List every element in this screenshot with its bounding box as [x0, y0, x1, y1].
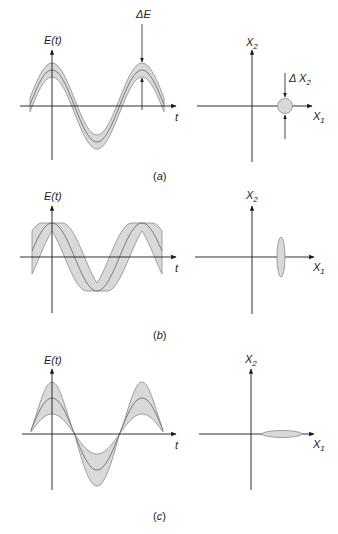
x1-label: X1: [312, 110, 325, 125]
panel-caption-b: (b): [153, 329, 166, 341]
x2-label: X2: [244, 353, 257, 368]
x2-label: X2: [245, 36, 258, 51]
x1-label: X1: [312, 261, 325, 276]
panel-caption-a: (a): [153, 170, 166, 182]
panel-c: E(t) t X1 X2 (c): [22, 353, 325, 522]
phase-plot-c: X1 X2: [199, 353, 325, 490]
uncertainty-circle: [278, 99, 293, 114]
phase-plot-b: X1 X2: [195, 189, 325, 314]
figure-canvas: E(t) t ΔE Δ X2 X1 X2 (a) E(t) t: [0, 0, 338, 534]
time-plot-c: E(t) t: [22, 354, 179, 490]
x2-label: X2: [245, 189, 258, 204]
x1-label: X1: [312, 438, 325, 453]
time-plot-a: E(t) t ΔE: [20, 8, 179, 160]
panel-b: E(t) t X1 X2 (b): [20, 189, 325, 341]
field-axis-label: E(t): [44, 354, 62, 366]
time-axis-label: t: [175, 111, 179, 123]
field-axis-label: E(t): [44, 190, 62, 202]
delta-x2-label: Δ X2: [288, 72, 311, 87]
field-axis-label: E(t): [44, 34, 62, 46]
panel-caption-c: (c): [153, 510, 166, 522]
time-plot-b: E(t) t: [20, 190, 179, 313]
time-axis-label: t: [175, 439, 179, 451]
delta-e-label: ΔE: [135, 8, 151, 20]
uncertainty-ellipse-horizontal: [262, 431, 302, 438]
time-axis-label: t: [175, 262, 179, 274]
panel-a: E(t) t ΔE Δ X2 X1 X2 (a): [20, 8, 325, 182]
squeezed-light-figure: E(t) t ΔE Δ X2 X1 X2 (a) E(t) t: [0, 0, 338, 534]
phase-plot-a: Δ X2 X1 X2: [197, 36, 325, 162]
uncertainty-ellipse-vertical: [277, 237, 285, 277]
